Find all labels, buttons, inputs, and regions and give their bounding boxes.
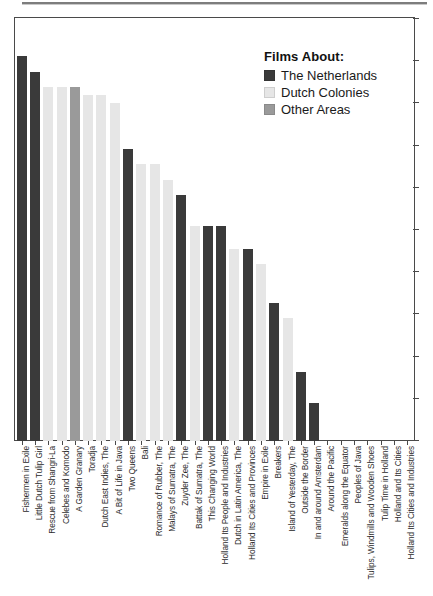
bar-slot [42,18,55,441]
x-tick [28,441,41,445]
legend-label-other-areas: Other Areas [281,102,350,117]
x-label-slot: Holland Its People and Industries [214,446,227,594]
x-tick [334,441,347,445]
bar-slot [81,18,94,441]
x-label-slot: Romance of Rubber, The [148,446,161,594]
x-tick [15,441,28,445]
x-tick [55,441,68,445]
x-tick [281,441,294,445]
bar[interactable] [123,149,133,441]
x-label-slot: This Changing World [201,446,214,594]
bar-slot [148,18,161,441]
x-label-slot: Tulip Time in Holland [374,446,387,594]
x-tick [241,441,254,445]
x-tick [81,441,94,445]
x-tick [121,441,134,445]
x-label-slot: Empire in Exile [254,446,267,594]
x-tick [68,441,81,445]
bar[interactable] [163,180,173,441]
bar[interactable] [309,403,319,441]
x-label-slot: Bali [135,446,148,594]
x-tick [268,441,281,445]
bar-slot [188,18,201,441]
bar[interactable] [269,303,279,441]
bar[interactable] [256,264,266,441]
bar[interactable] [150,164,160,441]
bar[interactable] [43,87,53,441]
x-label-slot: Two Queens [121,446,134,594]
bar-slot [135,18,148,441]
bar-slot [95,18,108,441]
x-tick [214,441,227,445]
x-tick [175,441,188,445]
legend-title: Films About: [264,49,414,64]
x-tick [42,441,55,445]
x-label-slot: Emeralds along the Equator [334,446,347,594]
legend-swatch-dutch-colonies [264,87,275,98]
x-tick [374,441,387,445]
x-tick [148,441,161,445]
legend-swatch-other-areas [264,104,275,115]
legend-item-the-netherlands[interactable]: The Netherlands [264,67,414,84]
x-tick [347,441,360,445]
x-tick [228,441,241,445]
x-label-slot: Around the Pacific [321,446,334,594]
x-axis-category-labels: Fishermen in ExileLittle Dutch Tulip Gir… [15,446,414,594]
bar[interactable] [110,103,120,441]
bar[interactable] [17,56,27,441]
x-tick [201,441,214,445]
x-label-slot: Zuyder Zee, The [175,446,188,594]
x-tick [387,441,400,445]
bar[interactable] [70,87,80,441]
x-label-slot: Dutch in Latin America, The [228,446,241,594]
x-label-slot: Battak of Sumatra, The [188,446,201,594]
bar-slot [241,18,254,441]
bar[interactable] [216,226,226,441]
x-label-slot: Little Dutch Tulip Girl [28,446,41,594]
x-tick [361,441,374,445]
bar[interactable] [229,249,239,441]
bar[interactable] [190,226,200,441]
legend-label-dutch-colonies: Dutch Colonies [281,85,369,100]
bar[interactable] [57,87,67,441]
x-tick [135,441,148,445]
x-axis-label: Holland Its Cities and Industries [407,446,416,559]
bar-slot [28,18,41,441]
x-tick [321,441,334,445]
bar[interactable] [96,95,106,441]
x-label-slot: Outside the Border [294,446,307,594]
x-tick [294,441,307,445]
bar-slot [108,18,121,441]
bar[interactable] [136,164,146,441]
x-label-slot: Dutch East Indies, The [95,446,108,594]
bar-slot [161,18,174,441]
bar[interactable] [283,318,293,441]
bar[interactable] [83,95,93,441]
x-label-slot: Holland Its Cities and Provinces [241,446,254,594]
x-label-slot: In and around Amsterdam [308,446,321,594]
legend-item-dutch-colonies[interactable]: Dutch Colonies [264,84,414,101]
x-tick [161,441,174,445]
bar[interactable] [176,195,186,441]
legend-swatch-the-netherlands [264,70,275,81]
x-tick [254,441,267,445]
x-label-slot: Peoples of Java [347,446,360,594]
bar-slot [121,18,134,441]
x-tick [188,441,201,445]
x-label-slot: Rescue from Shangri-La [42,446,55,594]
x-tick [308,441,321,445]
legend-item-other-areas[interactable]: Other Areas [264,101,414,118]
x-label-slot: Island of Yesterday, The [281,446,294,594]
x-label-slot: Fishermen in Exile [15,446,28,594]
bar-slot [55,18,68,441]
x-label-slot: Holland Its Cities and Industries [401,446,414,594]
bar-chart-figure: Fishermen in ExileLittle Dutch Tulip Gir… [0,0,433,596]
x-label-slot: Celebes and Komodo [55,446,68,594]
bar[interactable] [203,226,213,441]
bar-slot [15,18,28,441]
x-label-slot: Tulips, Windmills and Wooden Shoes [361,446,374,594]
bar[interactable] [30,72,40,441]
bar[interactable] [243,249,253,441]
bar[interactable] [296,372,306,441]
x-label-slot: Toradja [81,446,94,594]
